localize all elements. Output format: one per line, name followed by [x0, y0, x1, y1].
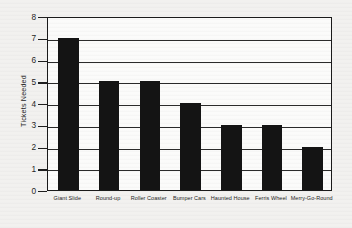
bar [302, 147, 323, 191]
y-axis-tick-label: 6 [22, 56, 36, 65]
bar [99, 81, 120, 190]
plot-area [47, 17, 332, 191]
y-axis-tick-label: 8 [22, 13, 36, 22]
y-axis-tick-mark [38, 61, 47, 62]
y-axis-tick-mark [38, 126, 47, 127]
y-axis-tick-label: 5 [22, 78, 36, 87]
y-axis-tick-mark [38, 17, 47, 18]
y-axis-tick-label: 0 [22, 187, 36, 196]
y-axis-tick-mark [38, 169, 47, 170]
gridline [48, 40, 331, 41]
y-axis-tick-mark [38, 104, 47, 105]
y-axis-tick-mark [38, 148, 47, 149]
y-axis-tick-label: 1 [22, 165, 36, 174]
bar [221, 125, 242, 190]
y-axis-tick-mark [38, 82, 47, 83]
bar [58, 38, 79, 190]
y-axis-tick-label: 4 [22, 100, 36, 109]
y-axis-tick-label: 3 [22, 121, 36, 130]
y-axis-tick-label: 2 [22, 143, 36, 152]
y-axis-tick-mark [38, 39, 47, 40]
bar [180, 103, 201, 190]
y-axis-tick-label: 7 [22, 34, 36, 43]
y-axis-tick-mark [38, 191, 47, 192]
bar [140, 81, 161, 190]
gridline [48, 83, 331, 84]
gridline [48, 62, 331, 63]
x-axis-tick-label: Merry-Go-Round [287, 194, 336, 202]
bar-chart: Tickets Needed 876543210 Giant SlideRoun… [0, 0, 352, 228]
bar [262, 125, 283, 190]
